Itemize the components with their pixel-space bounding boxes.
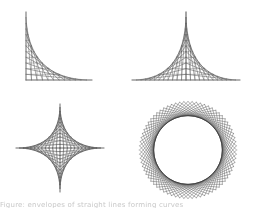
string-art-figure [0,0,266,208]
astroid-envelope-diagram [16,104,104,192]
figure-caption: Figure: envelopes of straight lines form… [0,201,266,208]
corner-envelope-diagram [26,12,92,80]
peak-envelope-diagram [132,12,240,80]
circle-envelope-diagram [139,101,236,198]
